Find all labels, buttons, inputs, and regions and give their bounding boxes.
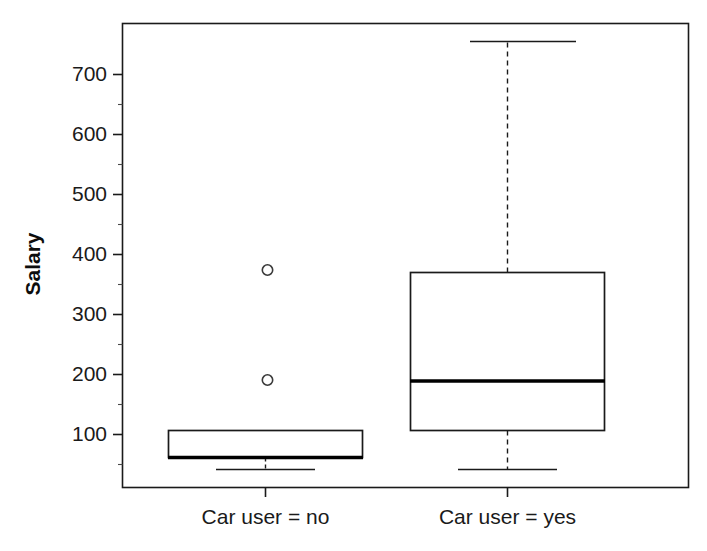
x-tick-label-car-user-no: Car user = no — [202, 505, 330, 528]
boxplot-chart-canvas: 700 600 500 400 300 200 100 Salary Car u… — [0, 0, 707, 551]
box-rect-yes — [411, 273, 605, 431]
y-tick-label-600: 600 — [72, 122, 107, 145]
x-tick-label-car-user-yes: Car user = yes — [439, 505, 576, 528]
y-axis-title: Salary — [21, 232, 44, 295]
x-axis-ticks — [266, 488, 508, 498]
box-rect-no — [169, 431, 363, 458]
y-tick-label-300: 300 — [72, 302, 107, 325]
boxplot-figure: 700 600 500 400 300 200 100 Salary Car u… — [0, 0, 707, 551]
y-tick-label-400: 400 — [72, 242, 107, 265]
y-tick-label-200: 200 — [72, 362, 107, 385]
y-tick-label-700: 700 — [72, 62, 107, 85]
y-tick-label-100: 100 — [72, 422, 107, 445]
y-axis-ticks — [113, 75, 123, 435]
y-tick-label-500: 500 — [72, 182, 107, 205]
